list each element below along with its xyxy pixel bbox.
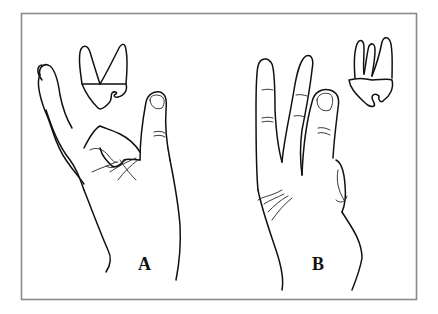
panel-a: A [38,44,180,280]
tooth-b [349,38,393,107]
panel-label-b: B [312,254,324,274]
hand-b [256,56,362,290]
tooth-a [79,44,127,108]
hand-a [38,65,180,280]
figure-border [22,14,417,300]
panel-b: B [256,38,393,290]
illustration: A [0,0,438,314]
panel-label-a: A [138,254,151,274]
